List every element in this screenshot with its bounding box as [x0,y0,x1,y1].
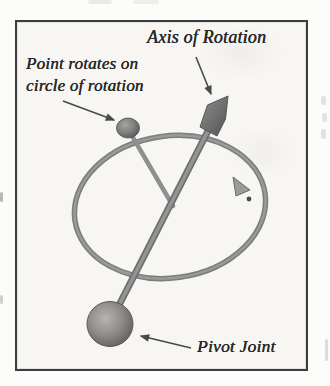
scan-artifact [133,0,159,4]
axis-arrowhead [200,96,228,136]
point-rotates-label: Point rotates on circle of rotation [26,53,144,97]
axis-of-rotation-label: Axis of Rotation [147,27,266,48]
point-label-arrow [63,101,114,120]
pivot-label-arrow [141,336,191,348]
scan-artifact [321,129,326,139]
scanned-figure: Axis of Rotation Point rotates on circle… [0,0,330,386]
scan-artifact [322,113,327,122]
scan-artifact [321,96,326,105]
rotation-direction-arrowhead [233,177,250,196]
scan-artifact [0,295,3,304]
point-sphere [117,118,140,138]
axis-label-arrow [196,57,211,94]
scan-artifact [0,192,3,202]
scan-artifact [88,0,112,4]
rotation-direction-dot [247,197,252,202]
pivot-sphere [87,302,133,347]
axis-rod [114,129,209,315]
scan-artifact [325,339,328,361]
point-rotates-label-line2: circle of rotation [26,75,144,97]
pivot-joint-label: Pivot Joint [197,336,276,357]
point-rotates-label-line1: Point rotates on [26,53,144,75]
